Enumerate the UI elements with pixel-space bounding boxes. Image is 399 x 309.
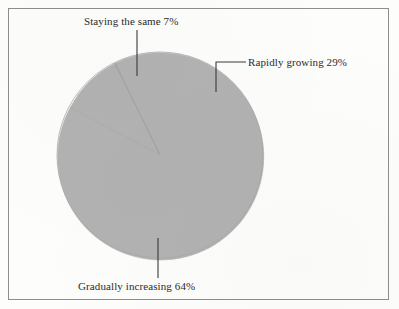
pie-slices — [57, 52, 264, 260]
pie-chart-figure: Staying the same 7% Rapidly growing 29% … — [0, 0, 399, 309]
pie-label-staying-the-same: Staying the same 7% — [84, 16, 178, 27]
pie-label-rapidly-growing: Rapidly growing 29% — [248, 57, 347, 68]
pie-label-gradually-increasing: Gradually increasing 64% — [78, 281, 195, 292]
pie-chart-plot-area — [0, 0, 399, 309]
